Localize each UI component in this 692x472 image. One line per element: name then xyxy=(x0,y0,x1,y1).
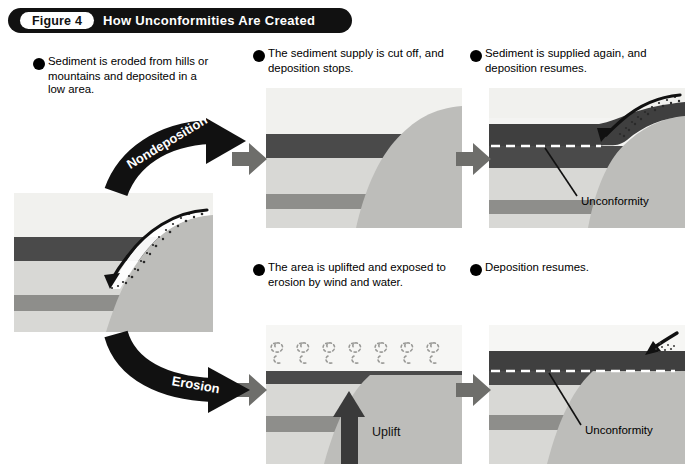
uplift-label: Uplift xyxy=(372,425,400,439)
panel-bottom-step-3: Unconformity xyxy=(489,325,685,464)
caption-step-1: 1Sediment is eroded from hills or mounta… xyxy=(33,55,213,97)
figure-banner: Figure 4 How Unconformities Are Created xyxy=(8,8,352,33)
panel-bottom-2-graphic xyxy=(266,325,462,464)
caption-top-step-3: 3Sediment is supplied again, and deposit… xyxy=(470,47,692,75)
caption-top-step-2-text: The sediment supply is cut off, and depo… xyxy=(268,47,444,74)
figure-number-label: Figure 4 xyxy=(32,14,82,28)
rock-bed-dark-eroded xyxy=(489,371,593,385)
step-number-bottom-3: 3 xyxy=(470,264,482,276)
step-number-top-2: 2 xyxy=(253,50,265,62)
panel-bottom-step-2: Uplift xyxy=(266,325,462,464)
figure-title: How Unconformities Are Created xyxy=(103,12,315,29)
panel-top-step-2 xyxy=(266,88,462,228)
caption-top-step-3-text: Sediment is supplied again, and depositi… xyxy=(485,47,646,74)
pathway-arrow-erosion xyxy=(110,330,275,406)
caption-bottom-step-3: 3Deposition resumes. xyxy=(470,261,692,276)
new-sediment-bed xyxy=(489,351,685,371)
panel-top-3-graphic xyxy=(489,88,685,228)
unconformity-label-top: Unconformity xyxy=(581,195,649,207)
panel-initial xyxy=(14,193,213,332)
panel-bottom-3-graphic xyxy=(489,325,685,464)
connector-arrow-bottom-2 xyxy=(456,372,492,408)
figure-canvas: Figure 4 How Unconformities Are Created … xyxy=(0,0,692,472)
step-number-1: 1 xyxy=(33,58,45,70)
panel-top-2-graphic xyxy=(266,88,462,228)
step-number-bottom-2: 2 xyxy=(253,264,265,276)
caption-bottom-step-3-text: Deposition resumes. xyxy=(485,261,589,273)
caption-bottom-step-2-text: The area is uplifted and exposed to eros… xyxy=(268,261,446,288)
unconformity-label-bottom: Unconformity xyxy=(585,424,653,436)
caption-top-step-2: 2The sediment supply is cut off, and dep… xyxy=(253,47,473,75)
panel-initial-graphic xyxy=(14,193,213,332)
step-number-top-3: 3 xyxy=(470,50,482,62)
figure-number-badge: Figure 4 xyxy=(20,12,94,29)
panel-top-step-3: Unconformity xyxy=(489,88,685,228)
connector-arrow-top-2 xyxy=(456,141,492,177)
caption-bottom-step-2: 2The area is uplifted and exposed to ero… xyxy=(253,261,468,289)
caption-step-1-text: Sediment is eroded from hills or mountai… xyxy=(48,55,208,95)
